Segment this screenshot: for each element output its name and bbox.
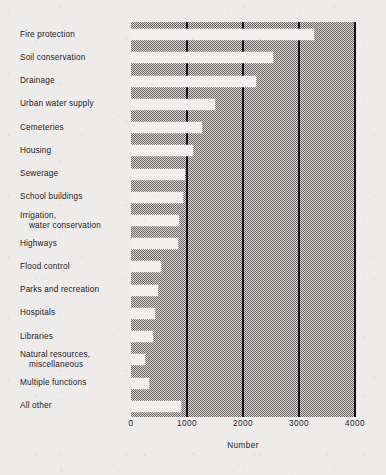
- bar: [131, 76, 256, 87]
- x-tick-label-1000: 1000: [177, 419, 197, 428]
- bar: [131, 29, 314, 40]
- bar: [131, 169, 185, 180]
- gridline-3000: [298, 22, 300, 417]
- bar: [131, 238, 178, 249]
- category-label-line1: Parks and recreation: [20, 285, 99, 294]
- category-label-line1: All other: [20, 401, 52, 410]
- category-label-line1: Irrigation,: [20, 211, 56, 220]
- category-label-line1: Libraries: [20, 332, 53, 341]
- bar: [131, 378, 149, 389]
- category-label: Drainage: [4, 76, 123, 86]
- category-label-line1: Hospitals: [20, 308, 55, 317]
- category-label: Sewerage: [4, 169, 123, 179]
- x-axis-tick-labels: 01000200030004000: [131, 419, 355, 435]
- bar: [131, 331, 153, 342]
- category-label: Cemeteries: [4, 123, 123, 133]
- category-label-line1: Drainage: [20, 76, 55, 85]
- category-label: Urban water supply: [4, 99, 123, 109]
- category-label-line1: Natural resources,: [20, 350, 90, 359]
- bar: [131, 122, 202, 133]
- category-label: All other: [4, 401, 123, 411]
- category-label-line1: Fire protection: [20, 30, 75, 39]
- category-label: Hospitals: [4, 308, 123, 318]
- x-axis-title: Number: [131, 441, 355, 450]
- bar: [131, 52, 273, 63]
- category-label-line2: water conservation: [20, 221, 123, 231]
- category-label: Libraries: [4, 332, 123, 342]
- category-label-line1: Flood control: [20, 262, 70, 271]
- category-label-line1: School buildings: [20, 192, 83, 201]
- x-tick-label-2000: 2000: [233, 419, 253, 428]
- category-label: Irrigation,water conservation: [4, 211, 123, 231]
- category-label: Flood control: [4, 262, 123, 272]
- category-label: School buildings: [4, 192, 123, 202]
- category-label-line1: Cemeteries: [20, 123, 64, 132]
- category-label-line1: Sewerage: [20, 169, 58, 178]
- category-label-line1: Housing: [20, 146, 51, 155]
- x-tick-label-4000: 4000: [345, 419, 365, 428]
- category-label: Multiple functions: [4, 378, 123, 388]
- bar: [131, 285, 158, 296]
- bar: [131, 401, 181, 412]
- bar: [131, 192, 183, 203]
- horizontal-bar-chart: Fire protectionSoil conservationDrainage…: [0, 0, 386, 475]
- category-label-line2: miscellaneous: [20, 360, 123, 370]
- category-label: Parks and recreation: [4, 285, 123, 295]
- bar: [131, 145, 193, 156]
- bar: [131, 261, 161, 272]
- bar: [131, 215, 179, 226]
- category-label: Housing: [4, 146, 123, 156]
- category-label: Soil conservation: [4, 53, 123, 63]
- category-label-line1: Soil conservation: [20, 53, 85, 62]
- category-label-line1: Multiple functions: [20, 378, 87, 387]
- category-axis-labels: Fire protectionSoil conservationDrainage…: [0, 22, 131, 417]
- x-tick-label-3000: 3000: [289, 419, 309, 428]
- category-label-line1: Urban water supply: [20, 99, 94, 108]
- bar: [131, 308, 155, 319]
- category-label: Highways: [4, 239, 123, 249]
- plot-right-border: [354, 22, 356, 417]
- x-tick-label-0: 0: [129, 419, 134, 428]
- bar: [131, 99, 215, 110]
- category-label-line1: Highways: [20, 239, 57, 248]
- category-label: Natural resources,miscellaneous: [4, 350, 123, 370]
- category-label: Fire protection: [4, 30, 123, 40]
- bar: [131, 354, 145, 365]
- plot-area: [131, 22, 355, 417]
